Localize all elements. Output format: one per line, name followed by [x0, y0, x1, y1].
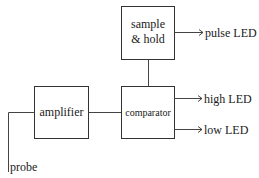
probe-label: probe — [10, 160, 37, 174]
sample-hold-label-line2: & hold — [131, 32, 165, 46]
sample-hold-label-line1: sample — [131, 17, 165, 31]
high-led-label: high LED — [204, 92, 252, 106]
pulse-led-label: pulse LED — [205, 26, 257, 40]
low-led-label: low LED — [204, 123, 249, 137]
pulse-led-output: pulse LED — [175, 26, 257, 40]
sample-hold-block: sample & hold — [122, 7, 175, 60]
amplifier-block: amplifier — [35, 87, 89, 139]
block-diagram: sample & hold pulse LED amplifier compar… — [0, 0, 259, 178]
comparator-label: comparator — [125, 107, 171, 118]
low-led-output: low LED — [175, 123, 249, 137]
high-led-output: high LED — [175, 92, 252, 106]
amplifier-label: amplifier — [40, 105, 84, 119]
probe-input: probe — [9, 113, 38, 175]
comparator-block: comparator — [122, 87, 175, 139]
